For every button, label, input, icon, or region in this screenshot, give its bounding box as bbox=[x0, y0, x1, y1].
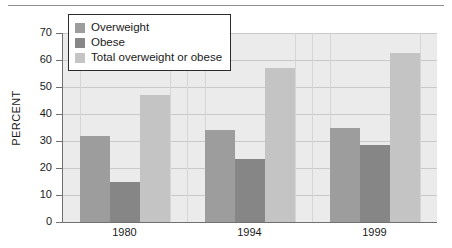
y-axis-tick-label: 0 bbox=[4, 216, 52, 227]
bar-overweight-1980 bbox=[80, 136, 110, 222]
bar-obese-1994 bbox=[235, 159, 265, 222]
y-axis-tick-label: 30 bbox=[4, 135, 52, 146]
bar-chart-figure: PERCENT 706050403020100 198019941999 Ove… bbox=[0, 0, 452, 248]
x-axis-tick-label-1994: 1994 bbox=[187, 226, 312, 238]
y-axis-tick-label: 40 bbox=[4, 108, 52, 119]
bar-obese-1980 bbox=[110, 182, 140, 223]
legend-item-obese: Obese bbox=[75, 35, 222, 50]
y-axis-tick: 10 bbox=[0, 189, 52, 200]
y-axis-tick: 20 bbox=[0, 162, 52, 173]
legend-item-label: Total overweight or obese bbox=[91, 51, 222, 64]
total-swatch bbox=[75, 53, 85, 63]
gridline bbox=[62, 87, 437, 88]
legend-item-label: Overweight bbox=[91, 21, 149, 34]
y-axis-tick: 50 bbox=[0, 81, 52, 92]
y-axis-line bbox=[62, 33, 63, 223]
y-axis-tick-label: 20 bbox=[4, 162, 52, 173]
y-axis-tick-label: 70 bbox=[4, 27, 52, 38]
bar-overweight-1999 bbox=[330, 128, 360, 223]
vertical-gridline bbox=[420, 33, 421, 222]
bar-total-overweight-or-obese-1980 bbox=[140, 95, 170, 222]
overweight-swatch bbox=[75, 23, 85, 33]
y-axis-tick-label: 60 bbox=[4, 54, 52, 65]
gridline bbox=[62, 141, 437, 142]
y-axis-tick-label: 50 bbox=[4, 81, 52, 92]
bar-obese-1999 bbox=[360, 145, 390, 222]
bar-total-overweight-or-obese-1994 bbox=[265, 68, 295, 222]
legend-item-label: Obese bbox=[91, 36, 125, 49]
y-axis-tick: 0 bbox=[0, 216, 52, 227]
y-axis-tick: 30 bbox=[0, 135, 52, 146]
y-axis-tick: 60 bbox=[0, 54, 52, 65]
x-axis-tick-label-1999: 1999 bbox=[312, 226, 437, 238]
top-divider-rule bbox=[8, 5, 444, 6]
y-axis-tick-label: 10 bbox=[4, 189, 52, 200]
x-axis-line bbox=[62, 222, 437, 223]
y-axis-tick: 70 bbox=[0, 27, 52, 38]
gridline bbox=[62, 114, 437, 115]
bar-overweight-1994 bbox=[205, 130, 235, 222]
vertical-gridline bbox=[295, 33, 296, 222]
legend-item-overweight: Overweight bbox=[75, 20, 222, 35]
chart-legend: OverweightObeseTotal overweight or obese bbox=[68, 14, 231, 71]
vertical-gridline bbox=[312, 33, 313, 222]
x-axis-tick-label-1980: 1980 bbox=[62, 226, 187, 238]
bar-total-overweight-or-obese-1999 bbox=[390, 53, 420, 222]
obese-swatch bbox=[75, 38, 85, 48]
y-axis-tick: 40 bbox=[0, 108, 52, 119]
legend-item-total-overweight-or-obese: Total overweight or obese bbox=[75, 50, 222, 65]
